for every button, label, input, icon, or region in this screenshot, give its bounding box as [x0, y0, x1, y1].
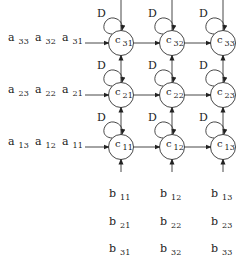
input-b32-subscript: 32	[171, 248, 181, 257]
cell-label-c11: c11	[115, 139, 133, 149]
input-b13-base: b	[211, 187, 218, 200]
cell-label-c23-subscript: 23	[225, 91, 235, 100]
input-a12: a12	[35, 136, 56, 147]
cell-label-c22-base: c	[166, 86, 172, 97]
input-b33-subscript: 33	[222, 248, 232, 257]
cell-label-c21-base: c	[115, 86, 121, 97]
cell-label-c31: c31	[115, 35, 133, 45]
delay-label: D	[148, 112, 157, 123]
cell-label-c12-subscript: 12	[174, 143, 184, 152]
cell-label-c13-base: c	[217, 138, 223, 149]
input-a12-base: a	[35, 135, 42, 148]
delay-label: D	[97, 60, 106, 71]
input-a11-subscript: 11	[73, 141, 83, 150]
input-b32: b32	[160, 243, 181, 254]
input-b12-subscript: 12	[171, 193, 181, 202]
delay-label: D	[97, 112, 106, 123]
input-b31: b31	[109, 243, 130, 254]
cell-label-c33: c33	[217, 35, 235, 45]
input-a22-subscript: 22	[46, 89, 56, 98]
cell-label-c22-subscript: 22	[174, 91, 184, 100]
input-a13-base: a	[8, 135, 15, 148]
input-b32-base: b	[160, 242, 167, 255]
input-a31-base: a	[62, 31, 69, 44]
input-b12-base: b	[160, 187, 167, 200]
cell-label-c23: c23	[217, 87, 235, 97]
input-b33-base: b	[211, 242, 218, 255]
input-a31-subscript: 31	[73, 37, 83, 46]
cell-label-c32: c32	[166, 35, 184, 45]
input-a33: a33	[8, 32, 29, 43]
delay-label: D	[199, 8, 208, 19]
delay-label: D	[97, 8, 106, 19]
systolic-array-diagram: Dc31Dc32Dc33Dc21Dc22Dc23Dc11Dc12Dc13a33a…	[0, 0, 250, 269]
cell-label-c32-subscript: 32	[174, 39, 184, 48]
input-a12-subscript: 12	[46, 141, 56, 150]
input-b13-subscript: 13	[222, 193, 232, 202]
input-a21-base: a	[62, 83, 69, 96]
input-b33: b33	[211, 243, 232, 254]
input-a33-subscript: 33	[19, 37, 29, 46]
input-a23: a23	[8, 84, 29, 95]
input-a21: a21	[62, 84, 83, 95]
input-a33-base: a	[8, 31, 15, 44]
input-a21-subscript: 21	[73, 89, 83, 98]
input-b13: b13	[211, 188, 232, 199]
cell-label-c21: c21	[115, 87, 133, 97]
cell-label-c13-subscript: 13	[225, 143, 235, 152]
input-b22-base: b	[160, 215, 167, 228]
cell-label-c12: c12	[166, 139, 184, 149]
input-a11: a11	[62, 136, 83, 147]
input-b11-base: b	[109, 187, 116, 200]
input-b11: b11	[109, 188, 130, 199]
input-b21-subscript: 21	[120, 221, 130, 230]
input-b21: b21	[109, 216, 130, 227]
input-b11-subscript: 11	[120, 193, 130, 202]
input-a13: a13	[8, 136, 29, 147]
input-b22-subscript: 22	[171, 221, 181, 230]
cell-label-c33-base: c	[217, 34, 223, 45]
cell-label-c32-base: c	[166, 34, 172, 45]
input-a22-base: a	[35, 83, 42, 96]
delay-label: D	[148, 8, 157, 19]
input-b23-subscript: 23	[222, 221, 232, 230]
cell-label-c11-base: c	[115, 138, 121, 149]
input-b23: b23	[211, 216, 232, 227]
input-b21-base: b	[109, 215, 116, 228]
cell-label-c11-subscript: 11	[123, 143, 133, 152]
input-b31-subscript: 31	[120, 248, 130, 257]
input-a31: a31	[62, 32, 83, 43]
cell-label-c31-subscript: 31	[123, 39, 133, 48]
input-b12: b12	[160, 188, 181, 199]
input-a32-subscript: 32	[46, 37, 56, 46]
input-b23-base: b	[211, 215, 218, 228]
input-a32: a32	[35, 32, 56, 43]
cell-label-c12-base: c	[166, 138, 172, 149]
input-a13-subscript: 13	[19, 141, 29, 150]
input-b31-base: b	[109, 242, 116, 255]
cell-label-c23-base: c	[217, 86, 223, 97]
cell-label-c13: c13	[217, 139, 235, 149]
input-b22: b22	[160, 216, 181, 227]
input-a23-base: a	[8, 83, 15, 96]
cell-label-c21-subscript: 21	[123, 91, 133, 100]
input-a22: a22	[35, 84, 56, 95]
delay-label: D	[148, 60, 157, 71]
input-a23-subscript: 23	[19, 89, 29, 98]
delay-label: D	[199, 60, 208, 71]
cell-label-c33-subscript: 33	[225, 39, 235, 48]
delay-label: D	[199, 112, 208, 123]
cell-label-c31-base: c	[115, 34, 121, 45]
input-a11-base: a	[62, 135, 69, 148]
input-a32-base: a	[35, 31, 42, 44]
cell-label-c22: c22	[166, 87, 184, 97]
